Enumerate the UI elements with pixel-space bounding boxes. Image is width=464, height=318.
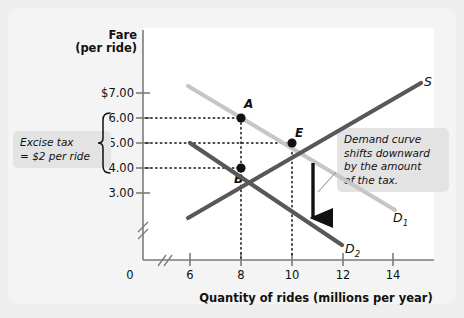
point-a-marker <box>236 113 245 122</box>
point-b-marker <box>236 163 245 172</box>
supply-curve <box>188 83 421 218</box>
point-e-marker <box>287 138 296 147</box>
excise-tax-brace <box>98 113 110 173</box>
demand-shift-leader-line <box>318 172 336 192</box>
chart-canvas <box>0 0 464 318</box>
demand-curve-d2 <box>190 143 342 245</box>
figure-container: Fare (per ride) Quantity of rides (milli… <box>0 0 464 318</box>
